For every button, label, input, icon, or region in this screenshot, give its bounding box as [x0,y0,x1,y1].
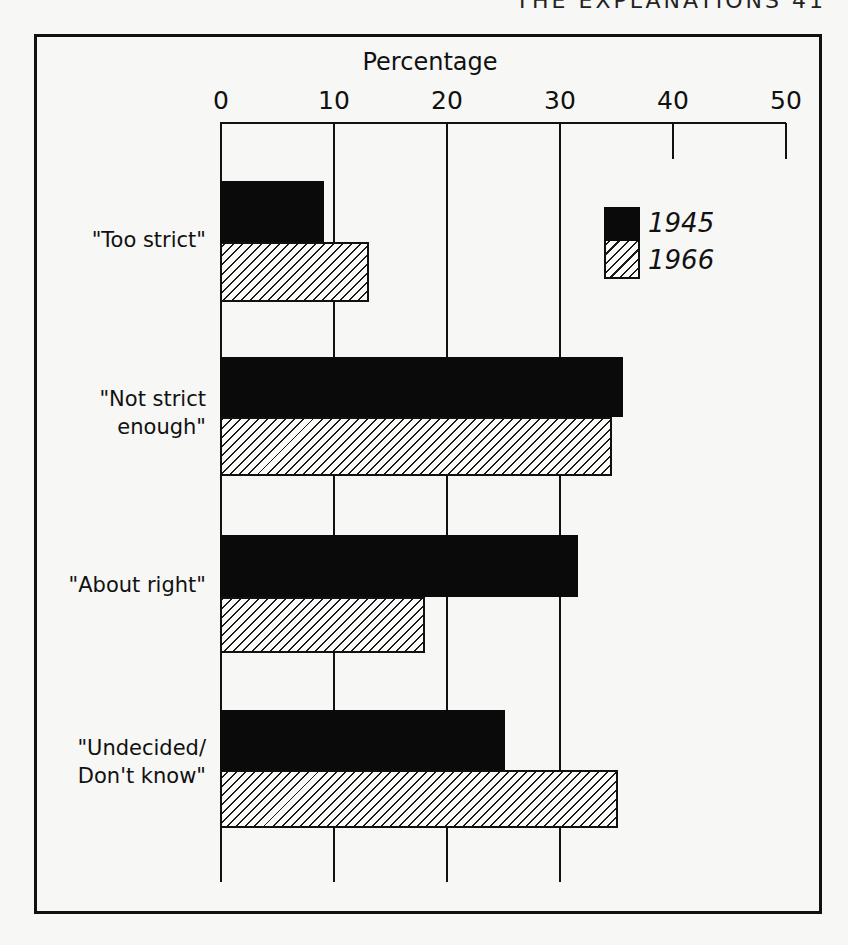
category-label: "About right" [69,571,206,599]
bar-1945 [220,710,505,770]
category-label: "Undecided/Don't know" [77,734,206,790]
x-tick-label: 30 [544,86,576,115]
x-tick-label: 0 [213,86,229,115]
gridline [559,123,561,882]
legend-label-1945: 1945 [648,208,714,238]
legend-label-1966: 1966 [648,245,714,275]
x-tick-label: 20 [431,86,463,115]
bar-1945 [220,181,324,242]
bar-1966 [220,417,612,476]
category-label-line: enough" [99,413,206,441]
bar-1945 [220,357,623,417]
x-axis-line [220,122,786,124]
category-label-line: "Undecided/ [77,734,206,762]
bar-1966 [220,770,618,828]
x-tick-label: 40 [657,86,689,115]
bar-1966 [220,597,425,653]
gridline [672,123,674,159]
category-label: "Too strict" [92,226,206,254]
category-label-line: "Too strict" [92,226,206,254]
category-label: "Not strictenough" [99,385,206,441]
legend-swatch-1945 [604,207,640,242]
running-head: THE EXPLANATIONS 41 [516,0,826,13]
x-tick-label: 50 [770,86,802,115]
x-axis-title: Percentage [350,48,510,76]
category-label-line: "About right" [69,571,206,599]
category-label-line: Don't know" [77,762,206,790]
category-label-line: "Not strict [99,385,206,413]
gridline [785,123,787,159]
bar-1945 [220,535,578,597]
legend-swatch-1966 [604,241,640,279]
x-tick-label: 10 [318,86,350,115]
bar-1966 [220,242,369,302]
